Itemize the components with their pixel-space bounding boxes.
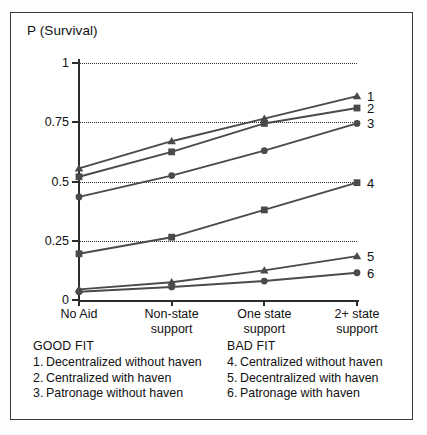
data-point-marker-circle [76,194,83,201]
series-line [79,96,357,168]
data-point-marker-circle [261,278,268,285]
chart-figure: P (Survival) 00.250.50.751 No AidNon-sta… [0,0,427,435]
data-point-marker-circle [261,147,268,154]
data-point-marker-square [76,173,83,180]
legend-heading-good: GOOD FIT [33,339,202,354]
series-line [79,108,357,177]
series-number-label: 4 [367,175,374,190]
data-point-marker-square [76,250,83,257]
data-point-marker-triangle [353,92,362,99]
legend-item-label: Centralized without haven [240,355,383,369]
legend-item: 4.Centralized without haven [227,355,383,370]
data-point-marker-circle [354,120,361,127]
data-point-marker-square [261,120,268,127]
data-point-marker-square [168,234,175,241]
legend-item-label: Decentralized with haven [240,371,378,385]
legend-item: 6.Patronage with haven [227,386,383,401]
data-point-marker-circle [168,172,175,179]
data-point-marker-circle [354,269,361,276]
series-number-label: 2 [367,101,374,116]
data-point-marker-square [261,207,268,214]
legend-item-label: Patronage without haven [46,386,183,400]
series-number-label: 5 [367,249,374,264]
series-number-label: 6 [367,265,374,280]
legend-item: 1.Decentralized without haven [33,355,202,370]
legend: GOOD FIT 1.Decentralized without haven 2… [11,335,414,421]
data-point-marker-square [354,105,361,112]
legend-item-label: Centralized with haven [46,371,171,385]
figure-frame: P (Survival) 00.250.50.751 No AidNon-sta… [10,12,413,420]
series-line [79,123,357,196]
legend-item-number: 4. [227,355,240,370]
series-lines [11,13,414,323]
legend-item-number: 3. [33,386,46,401]
legend-item-label: Decentralized without haven [46,355,202,369]
series-number-label: 3 [367,116,374,131]
data-point-marker-circle [168,284,175,291]
legend-column-bad-fit: BAD FIT 4.Centralized without haven 5.De… [227,339,383,402]
legend-item: 3.Patronage without haven [33,386,202,401]
legend-item-number: 2. [33,371,46,386]
legend-item-label: Patronage with haven [240,386,360,400]
legend-item-number: 5. [227,371,240,386]
data-point-marker-triangle [353,252,362,259]
data-point-marker-square [168,148,175,155]
legend-heading-bad: BAD FIT [227,339,383,354]
plot-area: P (Survival) 00.250.50.751 No AidNon-sta… [11,13,414,323]
series-line [79,183,357,254]
legend-item-number: 1. [33,355,46,370]
legend-item-number: 6. [227,386,240,401]
data-point-marker-circle [76,288,83,295]
legend-column-good-fit: GOOD FIT 1.Decentralized without haven 2… [33,339,202,402]
data-point-marker-square [354,179,361,186]
legend-item: 5.Decentralized with haven [227,371,383,386]
legend-item: 2.Centralized with haven [33,371,202,386]
